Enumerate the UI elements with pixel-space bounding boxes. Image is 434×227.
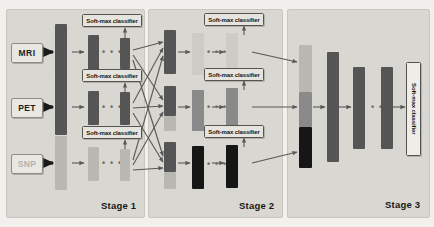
stage2-mid-layer-1-light — [164, 116, 176, 131]
stage-1-label: Stage 1 — [101, 200, 136, 211]
stage2-mid-ellipsis: • • • — [207, 103, 227, 112]
stage-3-label: Stage 3 — [385, 199, 420, 210]
softmax-stage2-top[interactable]: Soft-max classifier — [204, 13, 264, 26]
stage3-layer-2 — [353, 67, 365, 149]
softmax-stage1-mri[interactable]: Soft-max classifier — [82, 14, 142, 27]
stage2-top-ellipsis: • • • — [207, 48, 227, 57]
stage2-mid-output-layer — [226, 88, 238, 128]
input-box-pet[interactable]: PET — [11, 98, 43, 118]
stage1-pet-layer-n — [88, 91, 99, 125]
softmax-stage3-final[interactable]: Soft-max classifier — [406, 62, 421, 156]
stage2-bottom-layer-1-dark — [164, 142, 176, 172]
stage1-mri-layer-1 — [55, 24, 67, 80]
input-box-mri[interactable]: MRI — [11, 43, 43, 63]
softmax-stage2-bottom[interactable]: Soft-max classifier — [204, 125, 264, 138]
stage2-bottom-layer-2 — [192, 146, 204, 189]
stage2-bottom-ellipsis: • • • — [207, 160, 227, 169]
stage1-pet-output-layer — [120, 92, 130, 125]
stage3-concat-segment-top — [299, 45, 312, 92]
stage1-mri-layer-n — [88, 35, 99, 70]
figure-canvas: modalities and their correlation across … — [0, 0, 434, 227]
stage2-mid-layer-2 — [192, 90, 204, 131]
stage-2-label: Stage 2 — [239, 200, 274, 211]
softmax-stage1-snp[interactable]: Soft-max classifier — [82, 126, 142, 139]
stage1-snp-output-layer — [120, 149, 130, 181]
stage2-mid-layer-1-dark — [164, 86, 176, 116]
stage1-snp-layer-n — [88, 147, 99, 181]
stage3-layer-n — [381, 67, 393, 149]
stage3-concat-segment-bottom — [299, 127, 312, 168]
stage2-top-layer-2 — [192, 33, 204, 75]
input-box-snp[interactable]: SNP — [11, 154, 43, 174]
stage3-layer-1 — [327, 52, 339, 162]
stage2-bottom-output-layer — [226, 145, 238, 188]
softmax-stage1-pet[interactable]: Soft-max classifier — [82, 69, 142, 82]
stage3-concat-segment-mid — [299, 92, 312, 127]
stage1-pet-layer-1 — [55, 79, 67, 135]
softmax-stage2-mid[interactable]: Soft-max classifier — [204, 68, 264, 81]
stage2-top-layer-1 — [164, 30, 176, 74]
stage2-bottom-layer-1-light — [164, 172, 176, 189]
stage1-mri-output-layer — [120, 38, 130, 69]
stage1-snp-layer-1 — [55, 136, 67, 190]
